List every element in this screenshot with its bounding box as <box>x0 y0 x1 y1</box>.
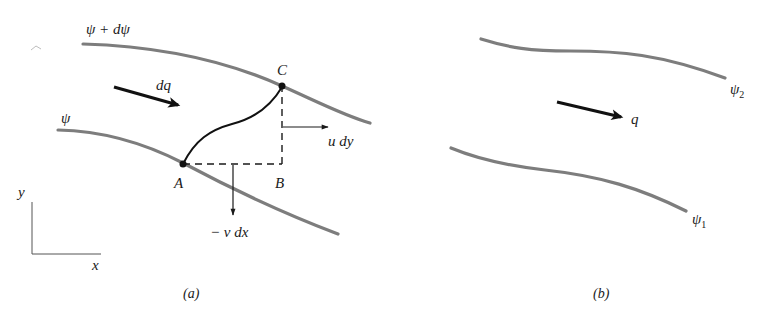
panel-a: ψ + dψ ψ dq A B C u dy − v dx y x (a) <box>16 21 370 302</box>
q-arrow <box>557 102 621 117</box>
v-dx-label: − v dx <box>210 224 249 240</box>
streamline-psi1 <box>451 148 686 211</box>
panel-b: ψ2 ψ1 q (b) <box>451 39 744 302</box>
streamline-psi <box>58 130 338 234</box>
streamline-psi2-label: ψ2 <box>730 81 744 100</box>
q-label: q <box>631 111 639 127</box>
y-axis-label: y <box>16 184 25 200</box>
panel-a-caption: (a) <box>183 286 200 302</box>
xy-axes <box>32 202 101 254</box>
caret-mark <box>31 46 41 50</box>
psi1-subscript: 1 <box>701 219 706 230</box>
panel-b-caption: (b) <box>593 286 610 302</box>
dq-label: dq <box>156 77 172 93</box>
streamline-psi1-label: ψ1 <box>692 211 706 230</box>
streamline-lower-label: ψ <box>61 110 71 126</box>
streamline-upper-label: ψ + dψ <box>86 21 130 37</box>
point-c-label: C <box>277 62 288 78</box>
point-c <box>279 83 286 90</box>
point-a-label: A <box>173 175 184 191</box>
u-dy-label: u dy <box>328 133 354 149</box>
point-b-label: B <box>275 175 284 191</box>
streamline-psi2 <box>481 39 725 78</box>
streamline-psi-plus-dpsi <box>83 44 370 123</box>
x-axis-label: x <box>91 257 99 273</box>
point-a <box>180 161 187 168</box>
stream-function-diagram: ψ + dψ ψ dq A B C u dy − v dx y x (a) <box>0 0 764 310</box>
curve-a-to-c <box>183 87 282 164</box>
psi2-subscript: 2 <box>739 89 744 100</box>
